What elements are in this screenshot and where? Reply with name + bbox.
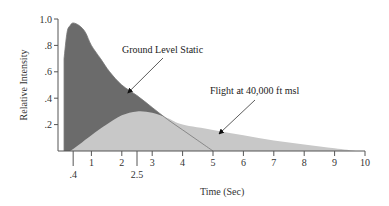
x-tick-label: 3: [150, 157, 155, 168]
chart: .2.4.6.81.012345678910.42.5Time (Sec)Rel…: [0, 0, 389, 206]
x-tick-label: 7: [271, 157, 276, 168]
x-tick-label: 9: [332, 157, 337, 168]
y-tick-label: .6: [45, 66, 53, 77]
x-tick-label: 5: [211, 157, 216, 168]
x-axis-label: Time (Sec): [200, 186, 244, 198]
x-tick-label: 10: [360, 157, 370, 168]
x-tick-label: 4: [180, 157, 185, 168]
x-tick-label: 1: [89, 157, 94, 168]
x-tick-label: 2: [119, 157, 124, 168]
y-tick-label: .4: [45, 93, 53, 104]
y-axis-label: Relative Intensity: [18, 50, 29, 121]
annotation-ground-level-static: Ground Level Static: [122, 44, 204, 55]
y-tick-label: .8: [45, 40, 53, 51]
x-extra-tick-label: 2.5: [131, 169, 144, 180]
x-tick-label: 8: [302, 157, 307, 168]
arrow-ground: [128, 58, 163, 93]
y-tick-label: 1.0: [40, 14, 53, 25]
arrow-flight: [219, 100, 255, 134]
x-extra-tick-label: .4: [69, 169, 77, 180]
annotation-flight-40000ft: Flight at 40,000 ft msl: [210, 85, 299, 96]
x-tick-label: 6: [241, 157, 246, 168]
y-tick-label: .2: [45, 119, 53, 130]
